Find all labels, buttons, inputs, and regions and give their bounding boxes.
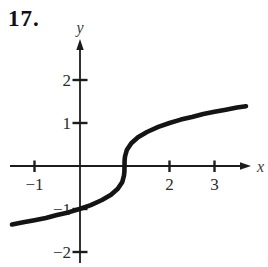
x-axis-label: x	[256, 158, 264, 175]
y-tick-label: −2	[53, 243, 71, 262]
function-graph: y x −12321−1−2	[0, 0, 268, 267]
y-axis-arrow-icon	[76, 39, 83, 50]
y-tick-label: 2	[63, 71, 72, 90]
figure-page: 17. y x −12321−1−2	[0, 0, 268, 267]
x-tick-label: −1	[25, 175, 43, 194]
x-axis-arrow-icon	[240, 162, 251, 170]
y-tick-label: 1	[63, 114, 72, 133]
x-tick-label: 2	[165, 175, 174, 194]
y-axis-label: y	[74, 19, 84, 37]
x-tick-label: 3	[210, 175, 219, 194]
